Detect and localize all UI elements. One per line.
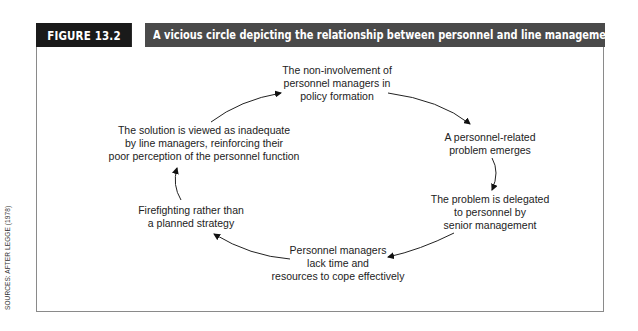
- node-line: to personnel by: [420, 206, 560, 219]
- node-firefighting: Firefighting rather than a planned strat…: [131, 204, 251, 230]
- arrow-n2-n3: [492, 158, 496, 190]
- node-line: lack time and: [268, 257, 408, 270]
- node-line: personnel managers in: [272, 77, 402, 90]
- node-line: poor perception of the personnel functio…: [104, 150, 304, 163]
- node-solution-inadequate: The solution is viewed as inadequate by …: [104, 124, 304, 163]
- node-line: Firefighting rather than: [131, 204, 251, 217]
- node-line: policy formation: [272, 90, 402, 103]
- node-line: A personnel-related: [430, 131, 550, 144]
- arrow-n6-n1: [211, 93, 281, 122]
- node-line: by line managers, reinforcing their: [104, 137, 304, 150]
- node-line: a planned strategy: [131, 217, 251, 230]
- node-non-involvement: The non-involvement of personnel manager…: [272, 64, 402, 103]
- node-problem-delegated: The problem is delegated to personnel by…: [420, 193, 560, 232]
- arrow-n5-n6: [175, 168, 181, 200]
- node-lack-time-resources: Personnel managers lack time and resourc…: [268, 244, 408, 283]
- node-problem-emerges: A personnel-related problem emerges: [430, 131, 550, 157]
- node-line: resources to cope effectively: [268, 270, 408, 283]
- node-line: The non-involvement of: [272, 64, 402, 77]
- node-line: The solution is viewed as inadequate: [104, 124, 304, 137]
- node-line: problem emerges: [430, 144, 550, 157]
- node-line: senior management: [420, 219, 560, 232]
- node-line: Personnel managers: [268, 244, 408, 257]
- node-line: The problem is delegated: [420, 193, 560, 206]
